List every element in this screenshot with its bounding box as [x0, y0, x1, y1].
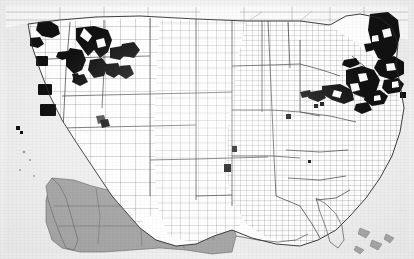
cluster-appalachia[interactable] [308, 160, 311, 163]
cluster-ozarks[interactable] [224, 164, 231, 172]
cluster-chicago[interactable] [286, 114, 291, 119]
map-surface[interactable] [0, 0, 414, 259]
us-county-map[interactable] [0, 0, 414, 259]
figure-container: Contiguous United States Highlighted cou… [0, 0, 414, 259]
cluster-southern-plains[interactable] [232, 146, 237, 152]
